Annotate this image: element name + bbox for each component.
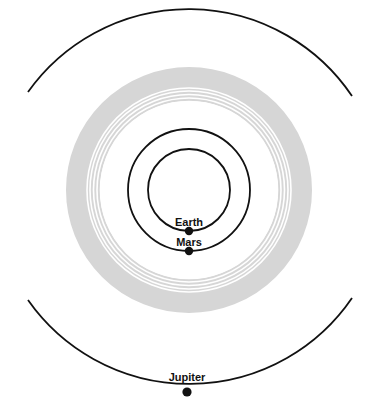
mars-planet-dot — [185, 247, 193, 255]
earth-planet-dot — [185, 227, 193, 235]
jupiter-label: Jupiter — [169, 371, 206, 383]
mars-label: Mars — [176, 236, 202, 248]
earth-label: Earth — [175, 216, 203, 228]
jupiter-planet-dot — [182, 387, 191, 396]
solar-system-diagram: Earth Mars Jupiter — [0, 0, 365, 416]
asteroid-belt — [83, 84, 295, 296]
